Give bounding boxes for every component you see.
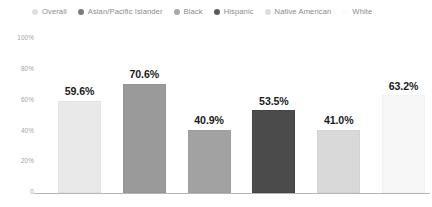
- bar-value-label: 63.2%: [389, 81, 419, 92]
- bar-group: 63.2%: [382, 0, 425, 193]
- bar[interactable]: [252, 110, 295, 193]
- bar-value-label: 70.6%: [130, 69, 160, 80]
- bar[interactable]: [317, 130, 360, 193]
- bar[interactable]: [58, 101, 101, 193]
- bar-group: 53.5%: [252, 0, 295, 193]
- bar-chart: OverallAsian/Pacific IslanderBlackHispan…: [0, 0, 432, 207]
- bar[interactable]: [382, 95, 425, 193]
- bar[interactable]: [123, 84, 166, 193]
- bar-series: 59.6%70.6%40.9%53.5%41.0%63.2%: [0, 0, 432, 193]
- bar-value-label: 40.9%: [194, 115, 224, 126]
- bar-value-label: 53.5%: [259, 96, 289, 107]
- bar-group: 40.9%: [188, 0, 231, 193]
- bar-group: 70.6%: [123, 0, 166, 193]
- bar-group: 41.0%: [317, 0, 360, 193]
- bar-value-label: 59.6%: [65, 86, 95, 97]
- bar[interactable]: [188, 130, 231, 193]
- bar-value-label: 41.0%: [324, 115, 354, 126]
- bar-group: 59.6%: [58, 0, 101, 193]
- plot-area: 100%80%60%40%20%0 59.6%70.6%40.9%53.5%41…: [0, 0, 432, 207]
